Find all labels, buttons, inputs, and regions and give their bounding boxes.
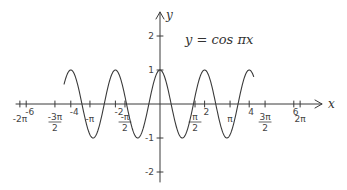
y-tick-label: -2 xyxy=(145,167,154,177)
x-pi-tick-label-denominator: 2 xyxy=(192,123,198,133)
axes: x y xyxy=(16,8,335,182)
x-pi-tick-label-numerator: π xyxy=(192,112,198,122)
y-tick-label: 2 xyxy=(148,31,154,41)
x-pi-tick-label-denominator: 2 xyxy=(262,123,268,133)
x-tick-label: -4 xyxy=(70,107,79,117)
y-tick-label: 1 xyxy=(148,65,154,75)
y-tick-label: -1 xyxy=(145,133,154,143)
x-axis-label: x xyxy=(328,97,335,111)
x-pi-tick-label: 2π xyxy=(295,114,307,124)
x-pi-tick-label-numerator: -3π xyxy=(48,112,63,122)
x-pi-tick-label-numerator: 3π xyxy=(259,112,271,122)
x-pi-tick-label: π xyxy=(227,114,233,124)
cosine-graph: x y -6-4-2246-2π-3π2-π-π2π2π3π22π21-1-2 … xyxy=(0,0,347,190)
y-axis-label: y xyxy=(165,8,173,22)
chart-title: y = cos πx xyxy=(184,32,254,47)
x-tick-label: 2 xyxy=(204,107,210,117)
x-pi-tick-label-denominator: 2 xyxy=(122,123,128,133)
x-tick-label: 4 xyxy=(248,107,254,117)
x-pi-tick-label-denominator: 2 xyxy=(52,123,58,133)
x-pi-tick-label: -2π xyxy=(13,114,28,124)
x-pi-tick-label: -π xyxy=(86,114,95,124)
